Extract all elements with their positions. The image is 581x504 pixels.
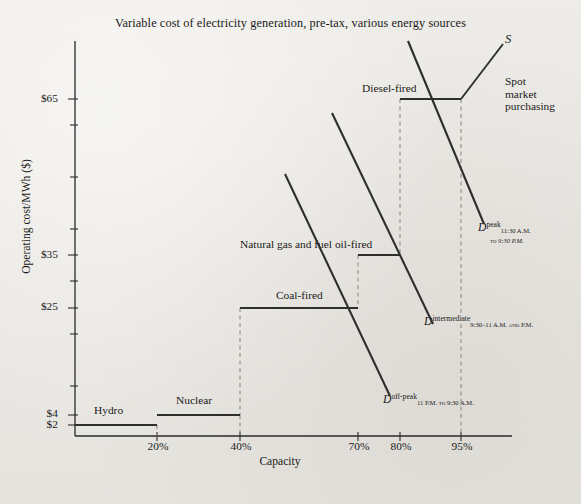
y-tick-marks [68, 99, 78, 425]
electricity-cost-chart: Variable cost of electricity generation,… [0, 0, 581, 504]
demand-curve-intermediate [332, 113, 433, 324]
chart-vector-layer [0, 0, 581, 504]
demand-curve-peak [408, 41, 484, 224]
demand-curve-off-peak [285, 174, 390, 396]
step-riser-dashes [157, 99, 461, 436]
spot-market-supply-curve [461, 44, 503, 99]
